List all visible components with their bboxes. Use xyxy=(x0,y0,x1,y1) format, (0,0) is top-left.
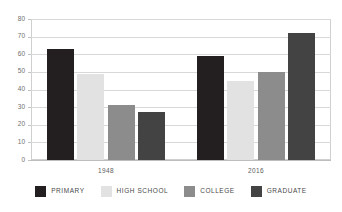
legend-item[interactable]: COLLEGE xyxy=(184,186,235,197)
legend-swatch-icon xyxy=(184,186,195,197)
y-axis-tick-label: 0 xyxy=(0,157,25,164)
bar-chart: 01020304050607080 19482016 PRIMARYHIGH S… xyxy=(0,0,342,212)
y-axis-tick-label: 20 xyxy=(0,121,25,128)
bar xyxy=(258,72,285,160)
legend-swatch-icon xyxy=(101,186,112,197)
y-axis-tick-label: 30 xyxy=(0,104,25,111)
legend-label: PRIMARY xyxy=(51,188,84,195)
plot-area xyxy=(31,19,331,160)
x-axis-category-label: 1948 xyxy=(31,168,181,175)
legend-swatch-icon xyxy=(35,186,46,197)
legend-label: HIGH SCHOOL xyxy=(117,188,169,195)
y-axis: 01020304050607080 xyxy=(0,0,31,212)
bar xyxy=(47,49,74,160)
x-axis-category-label: 2016 xyxy=(181,168,331,175)
legend-item[interactable]: PRIMARY xyxy=(35,186,84,197)
legend-label: COLLEGE xyxy=(200,188,235,195)
bar xyxy=(77,74,104,160)
legend-item[interactable]: GRADUATE xyxy=(251,186,307,197)
y-axis-tick-label: 40 xyxy=(0,86,25,93)
bars-layer xyxy=(31,19,331,160)
y-axis-tick-label: 50 xyxy=(0,68,25,75)
bar xyxy=(227,81,254,160)
legend-label: GRADUATE xyxy=(267,188,307,195)
gridline xyxy=(31,160,331,161)
bar xyxy=(108,105,135,160)
y-axis-tick-label: 60 xyxy=(0,51,25,58)
legend-swatch-icon xyxy=(251,186,262,197)
bar xyxy=(197,56,224,160)
bar xyxy=(288,33,315,160)
y-axis-tick-label: 70 xyxy=(0,33,25,40)
y-axis-tick-label: 80 xyxy=(0,16,25,23)
chart-legend: PRIMARYHIGH SCHOOLCOLLEGEGRADUATE xyxy=(0,185,342,197)
y-axis-tick-label: 10 xyxy=(0,139,25,146)
legend-item[interactable]: HIGH SCHOOL xyxy=(101,186,169,197)
bar xyxy=(138,112,165,160)
